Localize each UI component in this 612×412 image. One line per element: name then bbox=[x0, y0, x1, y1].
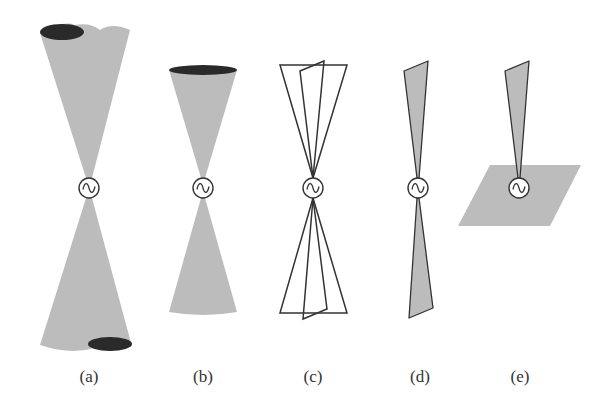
panel-b-diagram bbox=[169, 65, 237, 315]
panel-d-diagram bbox=[404, 61, 433, 318]
panel-a-diagram bbox=[40, 24, 132, 351]
antenna-patterns-figure bbox=[0, 0, 612, 412]
panel-e-diagram bbox=[458, 61, 581, 226]
lower-beam bbox=[40, 198, 131, 351]
source-icon bbox=[79, 178, 99, 198]
upper-dark-rim bbox=[169, 65, 237, 75]
panel-c-diagram bbox=[280, 61, 347, 319]
upper-tilted-triangle bbox=[300, 61, 324, 178]
caption-e: (e) bbox=[511, 367, 530, 387]
upper-beam bbox=[169, 70, 237, 178]
lower-wide-triangle bbox=[280, 198, 347, 313]
caption-b: (b) bbox=[193, 367, 213, 387]
upper-thin-beam bbox=[505, 61, 529, 178]
lower-thin-beam bbox=[409, 198, 433, 318]
source-icon bbox=[303, 178, 323, 198]
lower-beam bbox=[169, 198, 237, 315]
upper-wide-triangle bbox=[280, 65, 347, 178]
lower-tilted-triangle bbox=[303, 198, 327, 319]
caption-d: (d) bbox=[410, 367, 430, 387]
upper-thin-beam bbox=[404, 61, 428, 178]
caption-c: (c) bbox=[304, 367, 323, 387]
source-icon bbox=[408, 178, 428, 198]
upper-beam bbox=[40, 24, 130, 178]
source-icon bbox=[193, 178, 213, 198]
lower-dark-lobe bbox=[88, 337, 132, 351]
source-icon bbox=[509, 178, 529, 198]
caption-a: (a) bbox=[80, 367, 99, 387]
upper-dark-lobe bbox=[40, 24, 84, 40]
